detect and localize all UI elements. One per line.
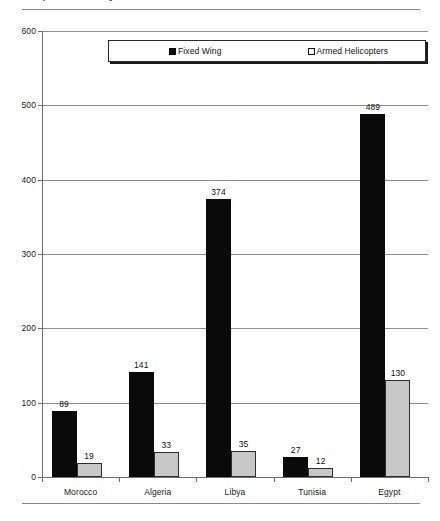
bar-morocco-fixed-wing bbox=[52, 411, 77, 477]
y-tick-mark-100 bbox=[38, 403, 42, 404]
bar-egypt-fixed-wing bbox=[360, 114, 385, 477]
y-tick-label: 500 bbox=[2, 100, 36, 110]
legend-entry-armed-helicopters: Armed Helicopters bbox=[308, 46, 389, 56]
chart-legend: Fixed Wing Armed Helicopters bbox=[108, 40, 426, 62]
y-tick-mark-600 bbox=[38, 31, 42, 32]
y-tick-mark-500 bbox=[38, 105, 42, 106]
legend-swatch-filled-square-icon bbox=[169, 48, 176, 55]
y-tick-mark-200 bbox=[38, 328, 42, 329]
bar-value-label-tunisia-helicopter: 12 bbox=[299, 456, 342, 466]
x-tick-mark bbox=[119, 477, 120, 482]
bar-tunisia-helicopter bbox=[308, 468, 333, 477]
y-tick-label: 400 bbox=[2, 175, 36, 185]
y-tick-label: 200 bbox=[2, 323, 36, 333]
bar-libya-helicopter bbox=[231, 451, 256, 477]
y-tick-label: 0 bbox=[2, 472, 36, 482]
y-tick-mark-300 bbox=[38, 254, 42, 255]
bar-value-label-morocco-helicopter: 19 bbox=[68, 451, 111, 461]
x-axis-label-egypt: Egypt bbox=[341, 487, 438, 497]
legend-label-fixed-wing: Fixed Wing bbox=[178, 46, 222, 56]
y-tick-label: 100 bbox=[2, 398, 36, 408]
bar-egypt-helicopter bbox=[385, 380, 410, 477]
bar-libya-fixed-wing bbox=[206, 199, 231, 477]
bar-value-label-algeria-helicopter: 33 bbox=[145, 440, 188, 450]
x-tick-mark bbox=[351, 477, 352, 482]
x-tick-mark bbox=[196, 477, 197, 482]
bar-value-label-morocco-fixed-wing: 89 bbox=[43, 399, 86, 409]
bar-morocco-helicopter bbox=[77, 463, 102, 477]
bar-value-label-egypt-helicopter: 130 bbox=[376, 368, 419, 378]
y-axis-line bbox=[42, 31, 43, 478]
legend-label-armed-helicopters: Armed Helicopters bbox=[317, 46, 389, 56]
legend-swatch-outlined-square-icon bbox=[308, 48, 315, 55]
legend-entry-fixed-wing: Fixed Wing bbox=[169, 46, 222, 56]
x-axis-line bbox=[42, 477, 429, 478]
bar-algeria-helicopter bbox=[154, 452, 179, 477]
bar-value-label-egypt-fixed-wing: 489 bbox=[351, 102, 394, 112]
y-tick-label: 600 bbox=[2, 26, 36, 36]
bar-value-label-libya-helicopter: 35 bbox=[222, 439, 265, 449]
x-tick-mark bbox=[428, 477, 429, 482]
bar-value-label-libya-fixed-wing: 374 bbox=[197, 187, 240, 197]
x-tick-mark bbox=[274, 477, 275, 482]
gridline-y-600 bbox=[42, 31, 428, 32]
bar-algeria-fixed-wing bbox=[129, 372, 154, 477]
bar-value-label-algeria-fixed-wing: 141 bbox=[120, 360, 163, 370]
y-tick-mark-400 bbox=[38, 180, 42, 181]
bar-chart: 891914133374352712489130 010020030040050… bbox=[0, 0, 440, 521]
bar-value-label-tunisia-fixed-wing: 27 bbox=[274, 445, 317, 455]
x-tick-mark bbox=[42, 477, 43, 482]
y-tick-label: 300 bbox=[2, 249, 36, 259]
